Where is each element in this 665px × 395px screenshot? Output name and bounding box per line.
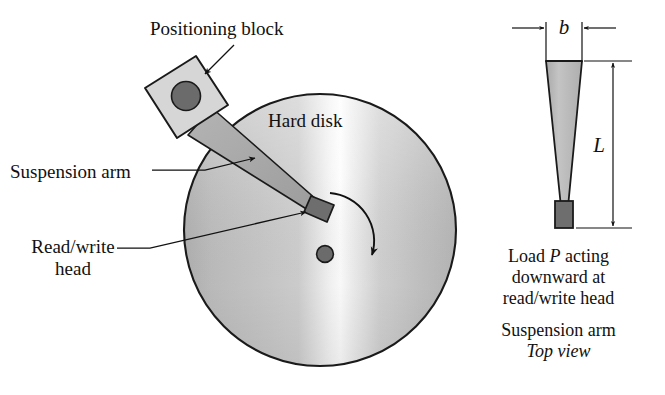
caption-top-view-line1: Suspension arm [456, 320, 661, 341]
caption-load-description: Load P acting downward at read/write hea… [456, 246, 661, 310]
top-view-panel: b L [512, 15, 632, 228]
dim-L-label: L [592, 133, 605, 157]
top-view-tapered-beam [546, 61, 582, 207]
caption-load-line1: Load P acting [456, 246, 661, 267]
leader-positioning-block [205, 45, 234, 74]
caption-load-pre: Load [508, 246, 549, 266]
caption-load-line2: downward at [456, 267, 661, 288]
hard-disk-figure: b L Positioning block Suspension arm Rea… [0, 0, 665, 395]
label-hard-disk: Hard disk [268, 110, 342, 132]
dim-b-label: b [559, 15, 570, 39]
caption-load-post: acting [561, 246, 609, 266]
caption-top-view: Suspension arm Top view [456, 320, 661, 362]
label-read-write-head-line2: head [14, 258, 132, 280]
spindle-hub [317, 246, 334, 263]
top-view-head-block [555, 201, 573, 228]
caption-load-line3: read/write head [456, 288, 661, 309]
label-positioning-block: Positioning block [150, 18, 284, 40]
label-suspension-arm: Suspension arm [10, 161, 131, 183]
label-read-write-head-line1: Read/write [14, 236, 132, 258]
positioning-block-pivot [172, 82, 201, 111]
caption-load-variable: P [550, 246, 561, 266]
label-read-write-head: Read/write head [14, 236, 132, 281]
caption-top-view-line2: Top view [456, 341, 661, 362]
